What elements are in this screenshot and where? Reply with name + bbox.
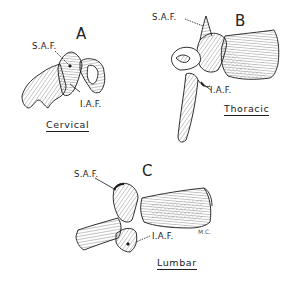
cervical-iaf-label: I.A.F.: [80, 100, 102, 109]
panel-letter-a: A: [76, 27, 86, 42]
lumbar-vertebra-drawing: [76, 178, 212, 252]
thoracic-caption: Thoracic: [224, 104, 269, 116]
lumbar-caption: Lumbar: [157, 258, 197, 270]
cervical-caption: Cervical: [46, 120, 89, 132]
panel-letter-c: C: [142, 164, 152, 179]
artist-initials: M.C.: [198, 229, 211, 235]
thoracic-saf-label: S.A.F.: [152, 13, 177, 22]
vertebrae-figure: A S.A.F. I.A.F. Cervical B S.A.F. I.A.F.…: [0, 0, 290, 284]
thoracic-vertebra-drawing: [171, 16, 278, 142]
cervical-saf-label: S.A.F.: [32, 42, 57, 51]
lumbar-iaf-label: I.A.F.: [152, 232, 174, 241]
lumbar-saf-label: S.A.F.: [74, 170, 99, 179]
thoracic-iaf-label: I.A.F.: [210, 86, 232, 95]
panel-letter-b: B: [235, 14, 245, 29]
